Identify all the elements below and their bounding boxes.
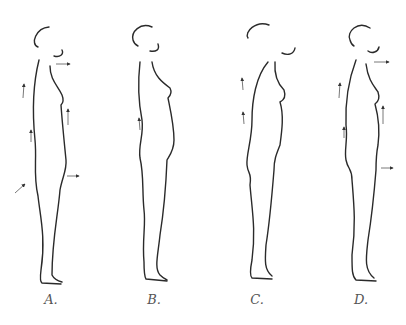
figure-label-d: D. [341,292,381,307]
figure-label-a: A. [31,292,71,307]
posture-diagram [0,0,406,325]
figure-b [133,26,174,281]
figure-label-c: C. [237,292,277,307]
figure-d [339,25,393,281]
figure-a [15,27,79,284]
figure-label-b: B. [134,292,174,307]
figure-c [242,24,295,279]
